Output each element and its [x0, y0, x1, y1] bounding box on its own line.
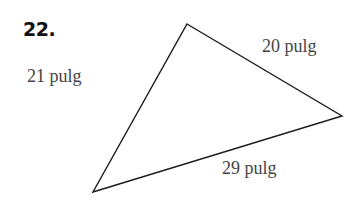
triangle-figure — [0, 0, 359, 205]
side-label-top-right: 20 pulg — [262, 36, 317, 57]
side-label-left: 21 pulg — [27, 66, 82, 87]
side-label-bottom: 29 pulg — [222, 158, 277, 179]
